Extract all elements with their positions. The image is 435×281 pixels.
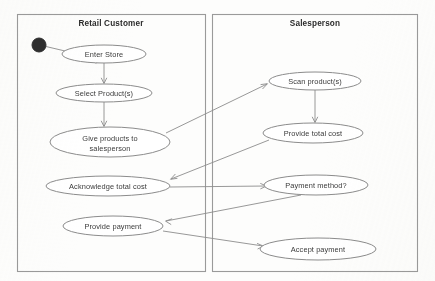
transition-enter-store-to-select-products: [101, 63, 107, 84]
activity-scan-products[interactable]: Scan product(s): [269, 72, 361, 90]
activity-payment-method-label: Payment method?: [285, 181, 346, 190]
activity-scan-products-label: Scan product(s): [288, 77, 342, 86]
transition-line: [166, 84, 267, 133]
activity-payment-method[interactable]: Payment method?: [264, 175, 368, 195]
activity-provide-payment-label: Provide payment: [85, 222, 142, 231]
activity-accept-payment[interactable]: Accept payment: [260, 238, 376, 260]
activity-enter-store-label: Enter Store: [85, 50, 123, 59]
transition-line: [171, 140, 269, 179]
transition-scan-products-to-provide-total-cost: [312, 90, 318, 123]
start-node: [32, 38, 46, 52]
activity-give-products-label-line1: Give products to: [82, 134, 137, 143]
transition-provide-total-cost-to-acknowledge-cost: [171, 140, 270, 179]
swimlane-salesperson-title: Salesperson: [290, 19, 340, 28]
transition-give-products-to-scan-products: [166, 84, 268, 133]
activity-select-products[interactable]: Select Product(s): [56, 84, 152, 102]
activity-select-products-label: Select Product(s): [75, 89, 133, 98]
swimlane-retail-customer-title: Retail Customer: [78, 19, 144, 28]
activity-acknowledge-cost[interactable]: Acknowledge total cost: [46, 176, 170, 196]
activity-provide-total-cost-label: Provide total cost: [284, 129, 343, 138]
transition-provide-payment-to-accept-payment: [163, 231, 264, 249]
transition-payment-method-to-provide-payment: [166, 195, 302, 225]
activity-give-products[interactable]: Give products to salesperson: [50, 127, 170, 157]
uml-activity-diagram: Retail Customer Salesperson: [0, 0, 435, 281]
activity-diagram-canvas: Retail Customer Salesperson: [0, 0, 435, 281]
activity-provide-payment[interactable]: Provide payment: [63, 216, 163, 236]
activity-accept-payment-label: Accept payment: [291, 245, 345, 254]
transition-acknowledge-cost-to-payment-method: [170, 183, 267, 189]
transition-select-products-to-give-products: [101, 102, 107, 127]
activity-enter-store[interactable]: Enter Store: [62, 45, 146, 63]
activity-acknowledge-cost-label: Acknowledge total cost: [69, 182, 147, 191]
activity-provide-total-cost[interactable]: Provide total cost: [263, 123, 363, 143]
transition-line: [170, 186, 266, 187]
activity-give-products-label-line2: salesperson: [90, 144, 131, 153]
transition-line: [166, 195, 301, 221]
